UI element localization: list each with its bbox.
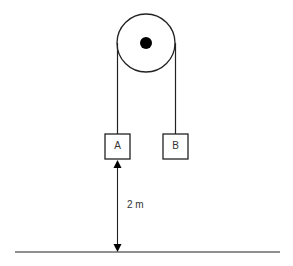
- block-a-label: A: [105, 141, 130, 151]
- arrowhead-up-icon: [114, 160, 122, 168]
- pulley-axle: [140, 37, 152, 49]
- arrowhead-down-icon: [114, 244, 122, 252]
- atwood-machine-diagram: [0, 0, 293, 266]
- block-b-label: B: [163, 141, 188, 151]
- height-label: 2 m: [127, 200, 144, 210]
